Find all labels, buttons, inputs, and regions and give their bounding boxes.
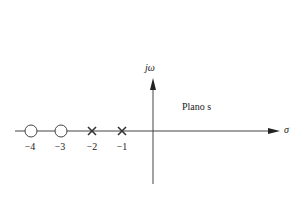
imag-axis-label: jω (145, 62, 155, 73)
tick-label: −2 (87, 141, 98, 152)
zero-marker-icon (25, 125, 37, 137)
tick-label: −4 (25, 141, 36, 152)
imag-axis-arrow-icon (150, 78, 156, 90)
tick-label: −1 (117, 141, 128, 152)
plane-label: Plano s (182, 101, 211, 112)
real-axis-arrow-icon (268, 128, 280, 134)
s-plane-diagram (0, 0, 297, 201)
real-axis-label: σ (284, 124, 289, 135)
zero-marker-icon (55, 125, 67, 137)
tick-label: −3 (55, 141, 66, 152)
